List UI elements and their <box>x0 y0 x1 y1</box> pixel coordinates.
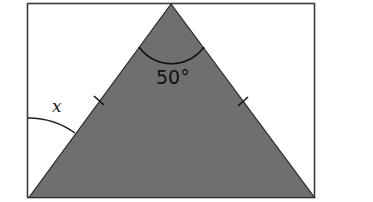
unknown-angle-label: x <box>52 96 62 116</box>
apex-angle-label: 50° <box>156 66 190 88</box>
geometry-diagram: 50° x <box>0 0 373 202</box>
